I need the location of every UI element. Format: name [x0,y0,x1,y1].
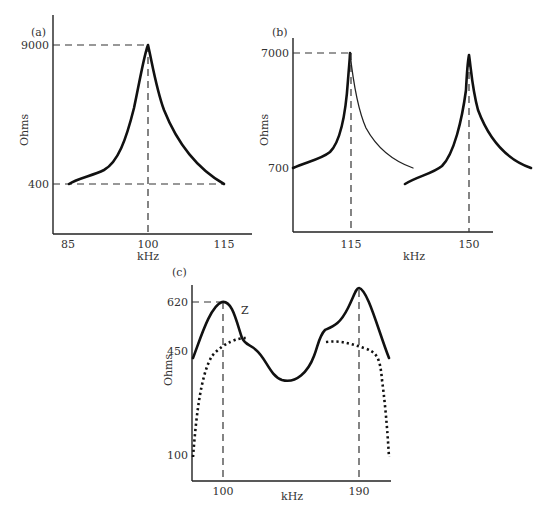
panel-b-ytick-700: 700 [268,162,289,175]
panel-c-ylabel: Ohms [162,354,175,387]
panel-c-curve-label-z: Z [241,304,249,317]
panel-c-xlabel: kHz [281,490,303,503]
panel-a-impedance-curve [69,45,224,184]
panel-a-xlabel: kHz [137,250,159,263]
panel-a-xtick-115: 115 [214,238,235,251]
figure: (a) 9000 400 85 100 115 kHz Ohms (b) 700… [0,0,550,520]
panel-a-label: (a) [31,26,46,39]
panel-c-ytick-620: 620 [167,296,188,309]
panel-b-ylabel: Ohms [258,114,271,147]
panel-c-ytick-100: 100 [167,449,188,462]
panel-c-dotted-curve-left [193,338,246,457]
panel-a-ytick-9000: 9000 [21,39,49,52]
panel-b-resonance-2 [405,55,531,184]
panel-a-xtick-85: 85 [61,238,75,251]
panel-b-xlabel: kHz [403,250,425,263]
panel-c: (c) 620 450 100 100 190 kHz Ohms Z [162,266,391,503]
panel-b-xtick-150: 150 [459,238,480,251]
panel-b-resonance-1-rising [293,53,350,168]
panel-b-label: (b) [272,26,288,39]
panel-b: (b) 7000 700 115 150 kHz Ohms [258,26,531,263]
panel-b-resonance-1-falling [350,53,413,168]
panel-a-ylabel: Ohms [18,114,31,147]
panel-c-dotted-curve-right [326,341,389,457]
panel-a: (a) 9000 400 85 100 115 kHz Ohms [18,15,252,263]
panel-a-ytick-400: 400 [28,178,49,191]
panel-b-ytick-7000: 7000 [261,47,289,60]
panel-c-xtick-190: 190 [349,485,370,498]
panel-c-label: (c) [172,266,187,279]
panel-c-xtick-100: 100 [213,485,234,498]
panel-b-xtick-115: 115 [341,238,362,251]
